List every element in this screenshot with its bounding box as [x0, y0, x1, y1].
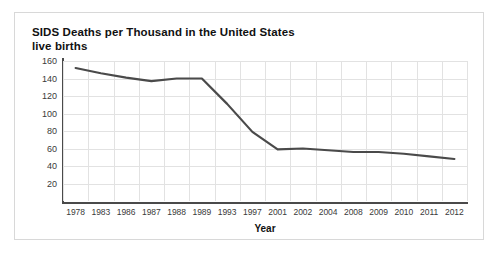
- screenshot-root: SIDS Deaths per Thousand in the United S…: [0, 0, 498, 256]
- x-tick-label: 2002: [293, 207, 312, 217]
- x-tick-label: 2011: [420, 207, 438, 217]
- x-tick-label: 1997: [243, 207, 262, 217]
- x-axis-tick-labels: 1978198319861987198819891993199720012002…: [63, 207, 467, 221]
- x-tick-label: 1989: [192, 207, 211, 217]
- plot-area: [63, 61, 467, 201]
- x-tick-label: 1987: [142, 207, 161, 217]
- y-tick-label: 80: [29, 127, 57, 136]
- y-axis-tick-labels: 16014012010080604020: [25, 61, 57, 201]
- gridline-vertical: [467, 61, 468, 201]
- x-axis-line: [62, 202, 468, 204]
- y-tick-label: 40: [29, 162, 57, 171]
- y-tick-label: 120: [29, 92, 57, 101]
- y-tick-label: 140: [29, 75, 57, 84]
- x-tick-label: 1978: [66, 207, 85, 217]
- x-tick-label: 1983: [91, 207, 110, 217]
- chart-title: SIDS Deaths per Thousand in the United S…: [32, 25, 452, 53]
- y-tick-label: 20: [29, 180, 57, 189]
- x-tick-label: 1988: [167, 207, 186, 217]
- y-tick-label: 160: [29, 57, 57, 66]
- x-tick-label: 1986: [117, 207, 136, 217]
- y-tick-label: 100: [29, 110, 57, 119]
- x-axis-title: Year: [63, 223, 467, 234]
- chart-card: SIDS Deaths per Thousand in the United S…: [14, 12, 484, 240]
- x-tick-label: 2009: [369, 207, 388, 217]
- series-line: [63, 61, 467, 201]
- x-tick-label: 2001: [268, 207, 287, 217]
- x-tick-label: 2008: [344, 207, 363, 217]
- x-tick-label: 2012: [445, 207, 464, 217]
- x-tick-label: 2004: [319, 207, 338, 217]
- y-tick-label: 60: [29, 145, 57, 154]
- x-tick-label: 1993: [218, 207, 237, 217]
- x-tick-label: 2010: [394, 207, 413, 217]
